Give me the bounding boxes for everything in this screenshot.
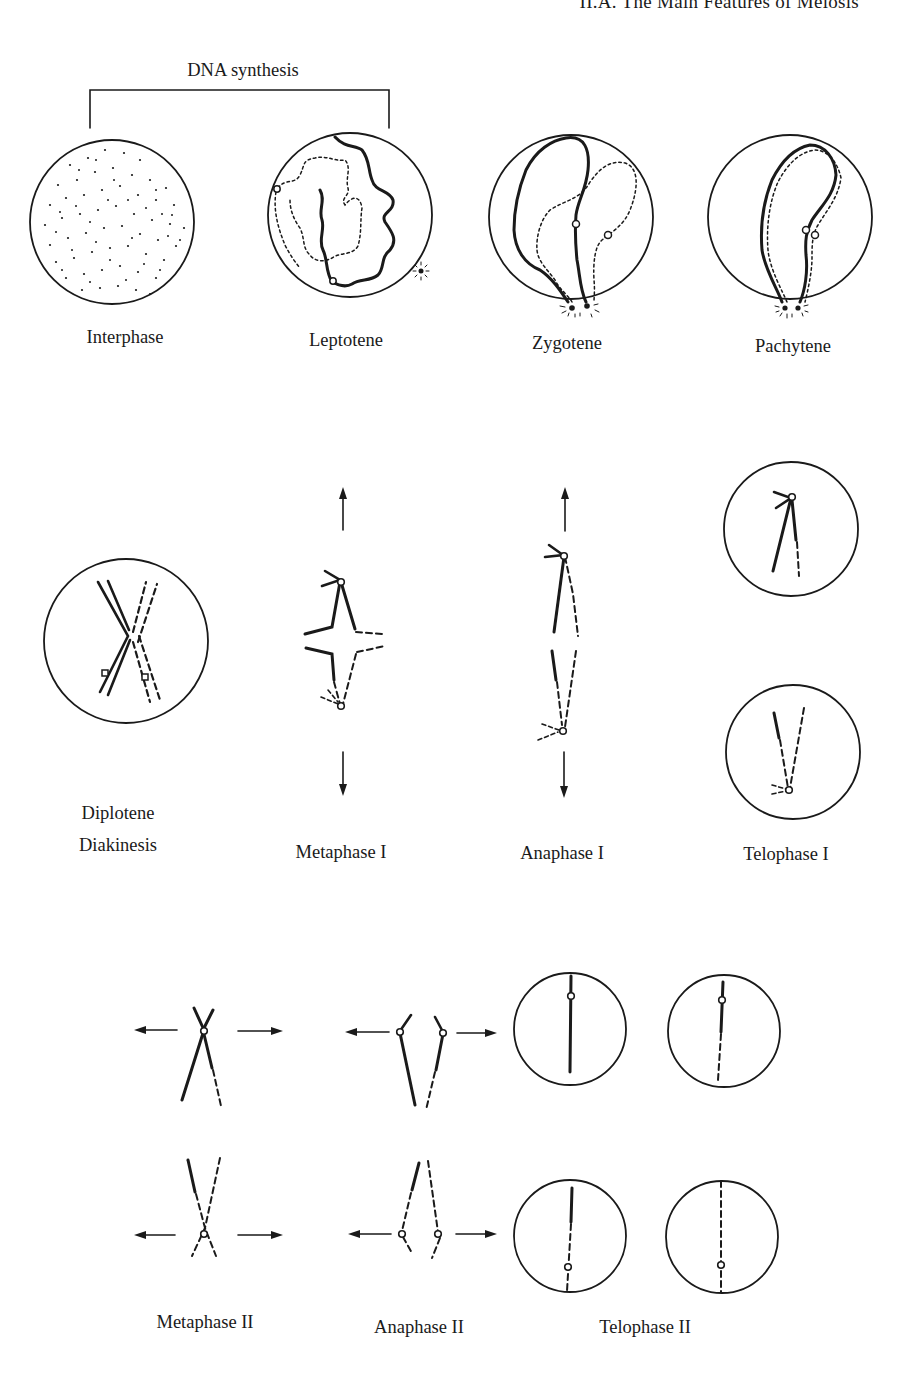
label-anaphase-2: Anaphase II [374,1317,464,1338]
arrow-right-icon [457,1029,497,1037]
metaphase-2-top-figure [134,1008,283,1106]
label-metaphase-1: Metaphase I [296,842,387,863]
label-metaphase-2: Metaphase II [156,1312,253,1333]
centriole-pair-icon [560,303,599,317]
metaphase-2-bottom-figure [134,1158,283,1256]
telophase-2-cell-2 [668,975,780,1087]
arrow-up-icon [339,487,347,530]
label-diakinesis: Diakinesis [79,835,157,856]
arrow-right-icon [238,1231,283,1239]
telophase-2-cell-4 [666,1181,778,1293]
arrow-right-icon [238,1027,283,1035]
metaphase-1-figure [305,487,385,796]
telophase-2-cell-3 [514,1180,626,1292]
label-telophase-2: Telophase II [599,1317,691,1338]
label-pachytene: Pachytene [755,336,831,357]
pachytene-cell [708,135,872,318]
anaphase-2-bottom-figure [348,1161,497,1258]
label-interphase: Interphase [86,327,163,348]
arrow-up-icon [561,487,569,531]
arrow-down-icon [560,752,568,798]
dna-synthesis-label: DNA synthesis [187,60,299,81]
arrow-left-icon [134,1231,175,1239]
zygotene-cell [489,135,653,317]
centriole-icon [413,262,429,280]
leptotene-cell [268,133,432,297]
label-telophase-1: Telophase I [743,844,829,865]
arrow-left-icon [345,1028,389,1036]
chromatin-dots [44,149,185,295]
interphase-cell [30,140,194,304]
telophase-2-cell-1 [514,973,626,1085]
arrow-left-icon [348,1230,391,1238]
arrow-left-icon [134,1026,177,1034]
label-anaphase-1: Anaphase I [520,843,604,864]
meiosis-figure [0,0,911,1378]
figure-caption-cutoff [22,1372,892,1378]
anaphase-1-figure [538,487,578,798]
telophase-1-bottom-cell [726,685,860,819]
label-leptotene: Leptotene [309,330,383,351]
dna-synthesis-bracket [90,90,389,128]
label-diplotene: Diplotene [82,803,155,824]
diplotene-cell [44,559,208,723]
label-zygotene: Zygotene [532,333,602,354]
centriole-pair-icon [775,305,808,318]
arrow-right-icon [456,1230,497,1238]
telophase-1-top-cell [724,462,858,596]
anaphase-2-top-figure [345,1015,497,1110]
arrow-down-icon [339,752,347,796]
